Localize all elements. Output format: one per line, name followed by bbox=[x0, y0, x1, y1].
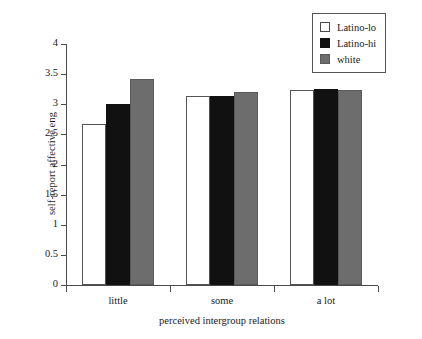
x-axis-tick bbox=[378, 286, 379, 292]
bar bbox=[234, 92, 258, 285]
x-axis-tick bbox=[170, 286, 171, 292]
bar-group bbox=[82, 44, 154, 285]
black-square-icon bbox=[320, 38, 330, 48]
bar bbox=[82, 124, 106, 285]
bar-chart: self-report affective eng 00.511.522.533… bbox=[0, 0, 422, 339]
y-axis-tick-label: 2.5 bbox=[18, 128, 58, 139]
bar bbox=[290, 90, 314, 285]
y-axis-tick-label: 0 bbox=[18, 279, 58, 290]
bar bbox=[210, 96, 234, 285]
bar-group bbox=[290, 44, 362, 285]
bar bbox=[106, 104, 130, 285]
y-axis-tick-label: 1 bbox=[18, 219, 58, 230]
legend-item: white bbox=[320, 51, 376, 67]
y-axis-tick-label: 2 bbox=[18, 159, 58, 170]
chart-legend: Latino-loLatino-hiwhite bbox=[312, 13, 386, 73]
y-axis-tick-label: 4 bbox=[18, 38, 58, 49]
x-axis-tick-label: some bbox=[177, 295, 267, 306]
bar bbox=[130, 79, 154, 285]
bar bbox=[314, 89, 338, 285]
y-axis-tick-label: 0.5 bbox=[18, 249, 58, 260]
legend-item-label: Latino-hi bbox=[337, 38, 376, 49]
legend-item-label: Latino-lo bbox=[337, 22, 376, 33]
y-axis-tick-label: 3.5 bbox=[18, 68, 58, 79]
gray-square-icon bbox=[320, 54, 330, 64]
bar bbox=[338, 90, 362, 285]
y-axis-tick-label: 3 bbox=[18, 98, 58, 109]
x-axis-tick bbox=[66, 286, 67, 292]
white-square-outline-icon bbox=[320, 22, 330, 32]
x-axis-tick bbox=[274, 286, 275, 292]
x-axis-title: perceived intergroup relations bbox=[66, 315, 378, 326]
bar-group bbox=[186, 44, 258, 285]
legend-item: Latino-hi bbox=[320, 35, 376, 51]
plot-area bbox=[66, 44, 378, 285]
bar bbox=[186, 96, 210, 285]
y-axis-tick-label: 1.5 bbox=[18, 189, 58, 200]
legend-item-label: white bbox=[337, 54, 360, 65]
legend-item: Latino-lo bbox=[320, 19, 376, 35]
x-axis-tick-label: a lot bbox=[281, 295, 371, 306]
x-axis-line bbox=[66, 285, 378, 286]
x-axis-tick-label: little bbox=[73, 295, 163, 306]
